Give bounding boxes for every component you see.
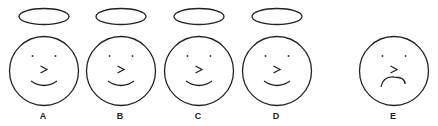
faces-diagram: ABCDE [0,0,438,126]
right-eye [55,55,57,57]
face-label: D [273,111,280,121]
face-e: E [360,37,429,122]
halo-icon [19,9,69,25]
right-eye [288,55,290,57]
face-label: B [117,111,124,121]
nose-icon [391,66,398,73]
smile-mouth [186,81,212,86]
nose-icon [274,66,281,73]
face-label: A [40,111,47,121]
halo-icon [174,9,224,25]
left-eye [187,55,189,57]
smile-mouth [264,81,290,86]
right-eye [210,55,212,57]
halo-icon [252,9,302,25]
face-a: A [10,9,79,122]
nose-icon [118,66,125,73]
nose-icon [196,66,203,73]
face-label: C [195,111,202,121]
left-eye [382,55,384,57]
left-eye [265,55,267,57]
right-eye [132,55,134,57]
halo-icon [96,9,146,25]
face-d: D [243,9,312,122]
nose-icon [41,66,48,73]
smile-mouth [31,81,57,86]
left-eye [32,55,34,57]
left-eye [109,55,111,57]
face-c: C [165,9,234,122]
frown-mouth [381,77,405,87]
face-label: E [390,111,396,121]
smile-mouth [108,81,134,86]
right-eye [405,55,407,57]
face-b: B [87,9,156,122]
